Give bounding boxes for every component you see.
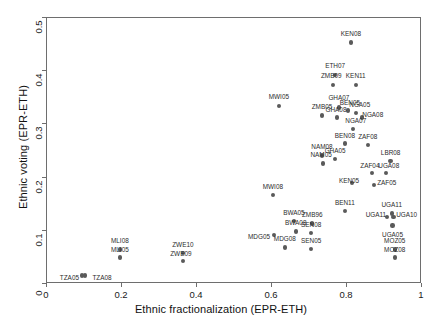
data-point-label: UGA11 [382, 201, 402, 208]
data-point [349, 40, 353, 44]
scatter-plot: 00.20.40.60.81 00.10.20.30.40.5 KEN08ETH… [0, 0, 442, 329]
x-tick-label: 0.6 [264, 289, 277, 300]
data-point-label: MWI08 [263, 183, 283, 190]
data-point-label: MOZ05 [384, 237, 405, 244]
x-tick-mark [346, 283, 347, 287]
data-point [320, 113, 324, 117]
data-point-label: SEN05 [301, 237, 321, 244]
data-point [294, 229, 298, 233]
data-point [83, 273, 87, 277]
data-point-label: ZMB09 [321, 72, 342, 79]
x-tick-label: 0.4 [189, 289, 202, 300]
x-tick-mark [421, 283, 422, 287]
data-point-label: KEN05 [339, 177, 359, 184]
data-point-label: UGA05 [382, 231, 403, 238]
y-tick-label: 0.3 [33, 123, 44, 143]
data-point-label: KEN11 [346, 72, 366, 79]
data-point-label: UGA10 [396, 211, 417, 218]
data-point-label: UGA08 [378, 162, 399, 169]
data-point [393, 255, 397, 259]
data-point-label: KEN08 [341, 30, 361, 37]
data-point-label: MWI05 [269, 93, 289, 100]
x-tick-label: 1 [418, 289, 423, 300]
y-tick-label: 0.4 [33, 70, 44, 90]
data-point-label: ZWE10 [172, 241, 193, 248]
data-point [384, 171, 388, 175]
data-point-label: LBR08 [381, 149, 401, 156]
data-point-label: GHA08 [326, 106, 347, 113]
data-point-label: ZAF04 [360, 162, 379, 169]
data-point [335, 115, 339, 119]
data-point-label: ZWE09 [170, 250, 191, 257]
data-point [321, 161, 325, 165]
y-tick-label: 0.5 [33, 17, 44, 37]
x-tick-mark [271, 283, 272, 287]
data-point-label: NGA05 [349, 101, 370, 108]
data-point [277, 104, 281, 108]
data-point-label: BEN08 [335, 132, 355, 139]
y-axis-title: Ethnic voting (EPR-ETH) [17, 14, 29, 280]
data-point [390, 223, 394, 227]
data-point-label: ETH07 [325, 62, 345, 69]
data-point-label: UGA11 [366, 211, 386, 218]
data-point-label: TZA08 [92, 274, 111, 281]
x-tick-label: 0.2 [114, 289, 127, 300]
data-point-label: MDG08 [274, 235, 296, 242]
data-point-label: SEN08 [301, 221, 321, 228]
data-point-label: ZMB96 [302, 211, 323, 218]
data-point [370, 171, 374, 175]
data-point-label: MDG05 [248, 233, 270, 240]
data-point-label: NGA07 [345, 117, 366, 124]
data-point-label: TZA05 [60, 274, 79, 281]
x-tick-mark [196, 283, 197, 287]
data-point [118, 255, 122, 259]
data-point-label: MOZ08 [384, 246, 405, 253]
data-point-label: ZAF08 [358, 133, 377, 140]
data-point-label: ZAF05 [377, 179, 396, 186]
data-point-label: BEN11 [335, 199, 355, 206]
x-axis-title: Ethnic fractionalization (EPR-ETH) [0, 303, 442, 315]
y-tick-label: 0 [33, 283, 44, 303]
data-point [343, 141, 347, 145]
data-point-label: MLI08 [111, 237, 129, 244]
y-tick-label: 0.2 [33, 177, 44, 197]
y-tick-label: 0.1 [33, 230, 44, 250]
plot-frame [46, 17, 421, 283]
x-tick-label: 0 [43, 289, 48, 300]
x-tick-mark [121, 283, 122, 287]
x-tick-mark [46, 283, 47, 287]
data-point [283, 245, 287, 249]
data-point [354, 111, 358, 115]
data-point-label: NAM05 [310, 151, 331, 158]
x-tick-label: 0.8 [339, 289, 352, 300]
data-point-label: MLI05 [111, 246, 129, 253]
